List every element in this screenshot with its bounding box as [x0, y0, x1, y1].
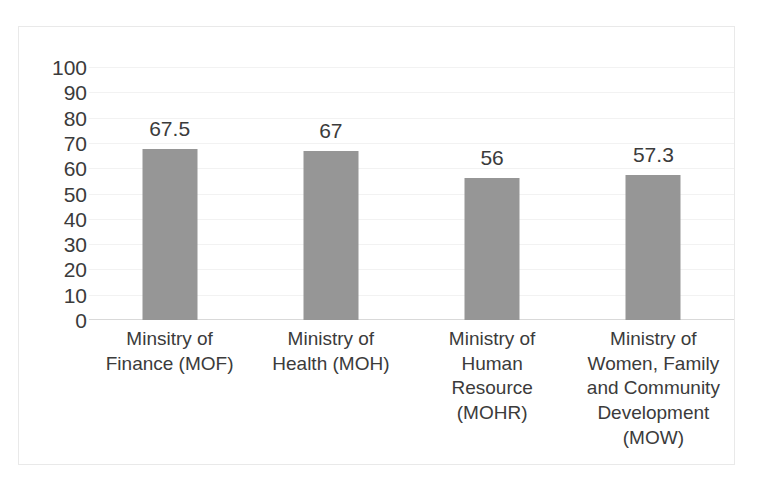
y-axis-tick-label: 70	[37, 132, 87, 153]
bar-group: 67	[250, 67, 411, 320]
bar[interactable]	[142, 149, 197, 320]
x-axis-category-label: Ministry ofHumanResource(MOHR)	[412, 327, 573, 426]
y-axis-tick-label: 100	[37, 57, 87, 78]
bar-group: 57.3	[573, 67, 734, 320]
category-label-line: Resource	[412, 376, 573, 401]
bar[interactable]	[303, 151, 358, 321]
y-axis-tick-label: 60	[37, 158, 87, 179]
y-axis-tick-label: 20	[37, 259, 87, 280]
category-label-line: Ministry of	[573, 327, 734, 352]
bar-group: 67.5	[89, 67, 250, 320]
bar-value-label: 67.5	[149, 118, 190, 139]
y-axis-tick-label: 80	[37, 107, 87, 128]
bar-value-label: 56	[480, 147, 503, 168]
category-label-line: Human	[412, 352, 573, 377]
x-axis-category-labels: Minsitry ofFinance (MOF)Ministry ofHealt…	[89, 327, 734, 487]
category-label-line: Finance (MOF)	[89, 352, 250, 377]
y-axis-tick-label: 40	[37, 208, 87, 229]
y-axis-tick-label: 30	[37, 234, 87, 255]
category-label-line: (MOW)	[573, 426, 734, 451]
x-axis-category-label: Ministry ofHealth (MOH)	[250, 327, 411, 376]
x-axis-category-label: Minsitry ofFinance (MOF)	[89, 327, 250, 376]
bar[interactable]	[626, 175, 681, 320]
category-label-line: Women, Family	[573, 352, 734, 377]
y-axis: 1009080706050403020100	[37, 67, 87, 320]
x-axis-category-label: Ministry ofWomen, Familyand CommunityDev…	[573, 327, 734, 450]
category-label-line: and Community	[573, 376, 734, 401]
category-label-line: Development	[573, 401, 734, 426]
chart-plot-frame: 1009080706050403020100 67.5675657.3 Mins…	[18, 26, 735, 465]
category-label-line: Ministry of	[250, 327, 411, 352]
y-axis-tick-label: 0	[37, 310, 87, 331]
y-axis-tick-label: 10	[37, 284, 87, 305]
category-label-line: Health (MOH)	[250, 352, 411, 377]
y-axis-tick-label: 50	[37, 183, 87, 204]
plot-area: 67.5675657.3	[89, 67, 734, 320]
bar-group: 56	[412, 67, 573, 320]
y-axis-tick-label: 90	[37, 82, 87, 103]
category-label-line: Minsitry of	[89, 327, 250, 352]
bar-value-label: 67	[319, 120, 342, 141]
bar-value-label: 57.3	[633, 144, 674, 165]
category-label-line: Ministry of	[412, 327, 573, 352]
bar[interactable]	[465, 178, 520, 320]
category-label-line: (MOHR)	[412, 401, 573, 426]
